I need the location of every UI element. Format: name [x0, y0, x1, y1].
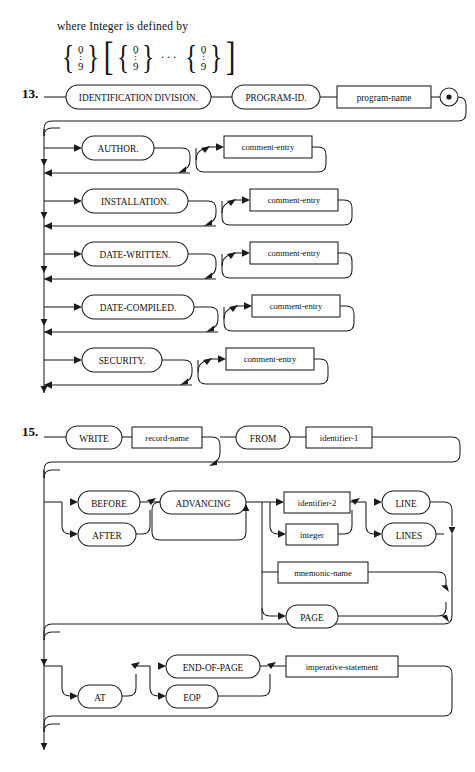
arrow-installation [74, 197, 82, 205]
node-program-name-label: program-name [357, 93, 412, 103]
arrow-write-optional-from [209, 460, 217, 467]
node-after-label: AFTER [92, 531, 122, 541]
diagram-15-canvas: WRITE record-name FROM identifier-1 BEFO… [0, 420, 475, 770]
arrow-installation-join [204, 220, 212, 227]
node-imperative-statement-label: imperative-statement [306, 662, 379, 672]
node-mnemonic-name-label: mnemonic-name [294, 568, 352, 578]
arrow-date-written [74, 250, 82, 258]
node-date-compiled-label: DATE-COMPILED. [100, 303, 177, 313]
rail-arrow-1 [41, 159, 48, 166]
arrow-author-return [44, 169, 52, 177]
arrow-before [70, 498, 78, 506]
node-date-written-label: DATE-WRITTEN. [100, 250, 171, 260]
node-program-id-label: PROGRAM-ID. [245, 93, 306, 103]
arrow-installation-return [44, 222, 52, 230]
arrow-after [70, 530, 78, 538]
node-security-label: SECURITY. [99, 356, 146, 366]
open-brace-1: { [62, 40, 74, 74]
intro-text: where Integer is defined by [57, 20, 188, 32]
arrow-identifier-2 [276, 498, 284, 506]
open-brace-3: { [185, 40, 197, 74]
arrow-author [74, 144, 82, 152]
digit-bottom-2: 9 [133, 61, 139, 71]
digit-bottom-3: 9 [201, 61, 207, 71]
arrow-security [74, 356, 82, 364]
arrow-end-of-page [158, 662, 166, 670]
node-advancing-label: ADVANCING [175, 499, 230, 509]
arrow-comment-date-written [242, 249, 250, 257]
arrow-comment-date-compiled [244, 302, 252, 310]
open-brace-2: { [117, 40, 129, 74]
node-record-name-label: record-name [145, 433, 189, 443]
arrow-at [70, 692, 78, 700]
node-comment-entry-installation-label: comment-entry [268, 195, 321, 205]
node-before-label: BEFORE [91, 499, 127, 509]
node-eop-label: EOP [183, 693, 201, 703]
node-comment-entry-author-label: comment-entry [242, 142, 295, 152]
close-brace-2: } [143, 40, 155, 74]
digit-stack-1: 0 ⋮ 9 [76, 44, 85, 71]
arrow-security-join [180, 379, 188, 386]
arrow-page-merge [441, 615, 449, 622]
rail-arrow-2 [41, 212, 48, 219]
node-line-label: LINE [395, 499, 416, 509]
node-integer-label: integer [300, 530, 324, 540]
digit-bottom-1: 9 [78, 61, 84, 71]
syntax-diagram-page: where Integer is defined by { 0 ⋮ 9 } [ … [0, 0, 475, 772]
node-lines-label: LINES [396, 531, 422, 541]
arrow-comment-security [218, 355, 226, 363]
arrow-date-written-join [204, 273, 212, 280]
node-identification-division-label: IDENTIFICATION DIVISION. [79, 93, 198, 103]
arrow-lines [374, 530, 382, 538]
node-comment-entry-date-compiled-label: comment-entry [270, 301, 323, 311]
node-identifier-2-label: identifier-2 [298, 498, 336, 508]
node-page-label: PAGE [300, 613, 324, 623]
arrow-date-compiled-return [44, 328, 52, 336]
arrow-mnemonic-merge [441, 585, 449, 592]
digit-stack-2: 0 ⋮ 9 [131, 44, 140, 71]
node-write-label: WRITE [79, 434, 109, 444]
diagram-13-canvas: IDENTIFICATION DIVISION. PROGRAM-ID. pro… [0, 80, 475, 410]
arrow-page [278, 612, 286, 620]
formula-ellipsis: ··· [157, 50, 183, 65]
digit-stack-3: 0 ⋮ 9 [199, 44, 208, 71]
close-brace-1: } [88, 40, 100, 74]
rail-arrow-5 [41, 386, 48, 393]
arrow-date-compiled-join [206, 326, 214, 333]
arrow-comment-installation [242, 196, 250, 204]
open-bracket: [ [104, 37, 114, 77]
arrow-date-written-return [44, 275, 52, 283]
period-dot-icon [446, 94, 451, 99]
arrow-line [374, 498, 382, 506]
rail-arrow-15-mid [41, 659, 48, 666]
node-comment-entry-date-written-label: comment-entry [268, 248, 321, 258]
node-from-label: FROM [250, 434, 276, 444]
rail-arrow-15-end [41, 743, 48, 750]
arrow-integer [278, 530, 286, 538]
node-identifier-1-label: identifier-1 [320, 433, 358, 443]
integer-definition-formula: { 0 ⋮ 9 } [ { 0 ⋮ 9 } ··· { 0 ⋮ 9 } ] [60, 36, 238, 78]
node-author-label: AUTHOR. [97, 144, 138, 154]
arrow-comment-author [216, 143, 224, 151]
node-at-label: AT [94, 693, 106, 703]
rail-arrow-3 [41, 266, 48, 273]
node-installation-label: INSTALLATION. [101, 197, 169, 207]
close-bracket: ] [226, 37, 236, 77]
arrow-line-merge [449, 527, 456, 534]
arrow-date-compiled [74, 303, 82, 311]
node-end-of-page-label: END-OF-PAGE [183, 663, 244, 673]
arrow-eop [158, 692, 166, 700]
node-comment-entry-security-label: comment-entry [244, 354, 297, 364]
close-brace-3: } [210, 40, 222, 74]
rail-arrow-4 [41, 319, 48, 326]
arrow-author-join [178, 167, 186, 174]
